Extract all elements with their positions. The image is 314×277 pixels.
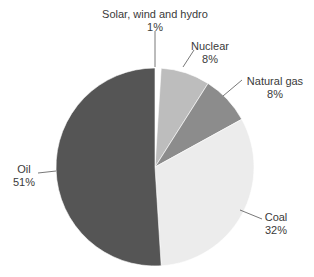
label-nuclear-pct: 8% [180,53,240,66]
label-oil: Oil 51% [8,163,40,189]
label-coal-name: Coal [256,211,296,224]
label-solar-pct: 1% [95,21,215,34]
label-solar-name: Solar, wind and hydro [95,8,215,21]
label-nuclear: Nuclear 8% [180,40,240,66]
label-gas-name: Natural gas [240,75,310,88]
pie-slices [56,68,254,266]
pie-slice-oil [56,68,161,266]
label-gas: Natural gas 8% [240,75,310,101]
label-gas-pct: 8% [240,88,310,101]
label-nuclear-name: Nuclear [180,40,240,53]
label-coal-pct: 32% [256,224,296,237]
label-coal: Coal 32% [256,211,296,237]
leader-oil [38,171,56,173]
label-solar: Solar, wind and hydro 1% [95,8,215,34]
label-oil-name: Oil [8,163,40,176]
label-oil-pct: 51% [8,176,40,189]
